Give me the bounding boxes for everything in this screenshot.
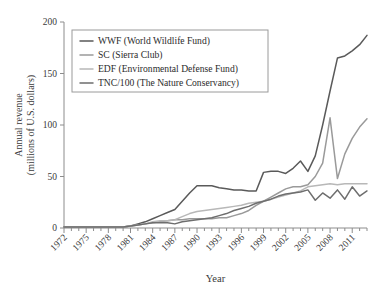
line-chart-svg: 0501001502001972197519781981198419871990… [0,0,385,287]
x-tick-label-2011: 2011 [337,232,357,252]
legend-label-edf: EDF (Environmental Defense Fund) [98,63,238,75]
legend-label-wwf: WWF (World Wildlife Fund) [98,35,210,47]
x-tick-label-1999: 1999 [248,232,269,253]
x-tick-label-1972: 1972 [48,232,69,253]
x-tick-label-1990: 1990 [181,232,202,253]
y-tick-label-0: 0 [52,223,57,233]
x-tick-label-2008: 2008 [314,232,335,253]
y-tick-label-100: 100 [43,120,58,130]
chart-figure: 0501001502001972197519781981198419871990… [0,0,385,287]
y-axis-title-line2: (millions of U.S. dollars) [25,75,37,175]
x-tick-label-1984: 1984 [137,232,158,253]
x-tick-label-1987: 1987 [159,232,180,253]
y-tick-label-50: 50 [48,172,58,182]
y-tick-label-150: 150 [43,69,58,79]
x-tick-label-1981: 1981 [115,232,136,253]
x-tick-label-1993: 1993 [204,232,225,253]
x-tick-label-1978: 1978 [93,232,114,253]
legend-label-tnc-100: TNC/100 (The Nature Conservancy) [98,77,239,89]
x-tick-label-2005: 2005 [292,232,313,253]
x-axis-title: Year [206,273,226,284]
x-tick-label-1975: 1975 [71,232,92,253]
legend-label-sc: SC (Sierra Club) [98,49,163,61]
x-tick-label-2002: 2002 [270,232,291,253]
x-tick-label-1996: 1996 [226,232,247,253]
y-axis-title-line1: Annual revenue [13,93,24,157]
y-tick-label-200: 200 [43,17,58,27]
